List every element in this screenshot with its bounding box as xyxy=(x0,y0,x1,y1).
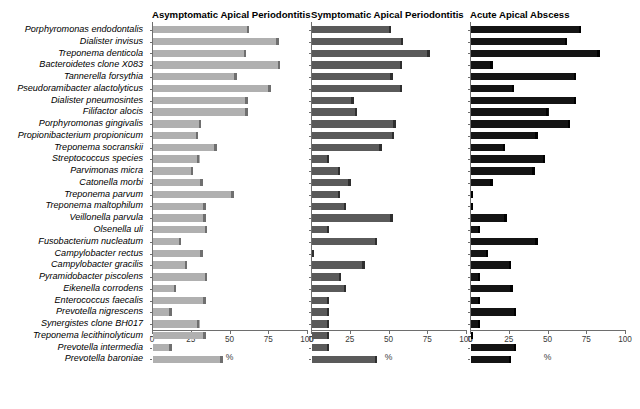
bar-end-cap xyxy=(174,285,176,292)
species-label-column: Porphyromonas endodontalisDialister invi… xyxy=(0,24,148,365)
bar-row xyxy=(471,48,626,60)
bar xyxy=(153,144,217,151)
bar-row xyxy=(153,248,308,260)
bar-row xyxy=(471,224,626,236)
bar-end-cap xyxy=(535,132,537,139)
bar xyxy=(153,250,203,257)
bar-row xyxy=(471,342,626,354)
y-axis-tick xyxy=(150,124,153,125)
y-axis-tick xyxy=(468,218,471,219)
bar-row xyxy=(471,283,626,295)
y-axis-tick xyxy=(150,242,153,243)
bar-chart-figure: Porphyromonas endodontalisDialister invi… xyxy=(0,0,640,409)
bar-row xyxy=(153,130,308,142)
bar-end-cap xyxy=(393,120,395,127)
bar xyxy=(153,38,279,45)
bar xyxy=(312,285,346,292)
bar-end-cap xyxy=(327,155,329,162)
bar-end-cap xyxy=(375,238,377,245)
y-axis-tick xyxy=(150,359,153,360)
bar-end-cap xyxy=(478,320,480,327)
bar-end-cap xyxy=(203,203,205,210)
bar-end-cap xyxy=(471,332,473,339)
y-axis-tick xyxy=(309,265,312,266)
bar-row xyxy=(471,236,626,248)
bar-row xyxy=(312,236,467,248)
y-axis-tick xyxy=(150,112,153,113)
bar-end-cap xyxy=(179,238,181,245)
bar xyxy=(312,191,340,198)
species-label: Treponema denticola xyxy=(0,48,148,60)
bar xyxy=(471,238,538,245)
bar-end-cap xyxy=(203,214,205,221)
y-axis-tick xyxy=(468,265,471,266)
y-axis-tick xyxy=(309,312,312,313)
bar-row xyxy=(153,259,308,271)
y-axis-tick xyxy=(150,30,153,31)
bar-row xyxy=(471,106,626,118)
bar xyxy=(153,61,280,68)
y-axis-tick xyxy=(309,42,312,43)
bar-row xyxy=(312,189,467,201)
bar-row xyxy=(153,189,308,201)
bar-end-cap xyxy=(344,203,346,210)
panel-symptomatic: Symptomatic Apical Periodontitis 0255075… xyxy=(311,0,466,409)
bar xyxy=(471,155,545,162)
bar-end-cap xyxy=(400,85,402,92)
bar-end-cap xyxy=(478,297,480,304)
bar-row xyxy=(471,318,626,330)
y-axis-tick xyxy=(468,324,471,325)
bar-row xyxy=(312,106,467,118)
bar-end-cap xyxy=(327,344,329,351)
bar-end-cap xyxy=(338,191,340,198)
bar-row xyxy=(153,330,308,342)
y-axis-tick xyxy=(309,89,312,90)
bar-end-cap xyxy=(278,61,280,68)
bar-row xyxy=(471,212,626,224)
bar-end-cap xyxy=(514,344,516,351)
y-axis-tick xyxy=(468,30,471,31)
bar xyxy=(153,226,207,233)
bar-end-cap xyxy=(486,250,488,257)
bar-end-cap xyxy=(509,261,511,268)
bar xyxy=(153,203,206,210)
y-axis-tick xyxy=(309,124,312,125)
species-label: Campylobacter rectus xyxy=(0,248,148,260)
y-axis-tick xyxy=(150,148,153,149)
y-axis-tick xyxy=(150,89,153,90)
y-axis-tick xyxy=(150,171,153,172)
bar-row xyxy=(471,354,626,366)
bar-end-cap xyxy=(546,108,548,115)
bar-end-cap xyxy=(203,332,205,339)
species-label: Porphyromonas endodontalis xyxy=(0,24,148,36)
y-axis-tick xyxy=(150,195,153,196)
species-label: Pyramidobacter piscolens xyxy=(0,271,148,283)
bar xyxy=(153,261,187,268)
y-axis-tick xyxy=(150,312,153,313)
bar-row xyxy=(312,330,467,342)
bar xyxy=(312,356,377,363)
bar xyxy=(153,332,206,339)
bar-end-cap xyxy=(579,26,581,33)
bar xyxy=(312,108,357,115)
bar xyxy=(471,132,538,139)
bar-row xyxy=(153,83,308,95)
bar-end-cap xyxy=(574,73,576,80)
y-axis-tick xyxy=(309,301,312,302)
species-label: Parvimonas micra xyxy=(0,165,148,177)
y-axis-tick xyxy=(309,159,312,160)
bar xyxy=(471,308,516,315)
bar-end-cap xyxy=(392,132,394,139)
bar-end-cap xyxy=(344,285,346,292)
y-axis-tick xyxy=(468,254,471,255)
y-axis-tick xyxy=(468,42,471,43)
bar-end-cap xyxy=(244,50,246,57)
y-axis-tick xyxy=(468,148,471,149)
bar-end-cap xyxy=(185,261,187,268)
bar-row xyxy=(153,153,308,165)
bar-row xyxy=(312,118,467,130)
y-axis-tick xyxy=(468,289,471,290)
y-axis-tick xyxy=(468,195,471,196)
y-axis-tick xyxy=(150,277,153,278)
bar-end-cap xyxy=(197,155,199,162)
